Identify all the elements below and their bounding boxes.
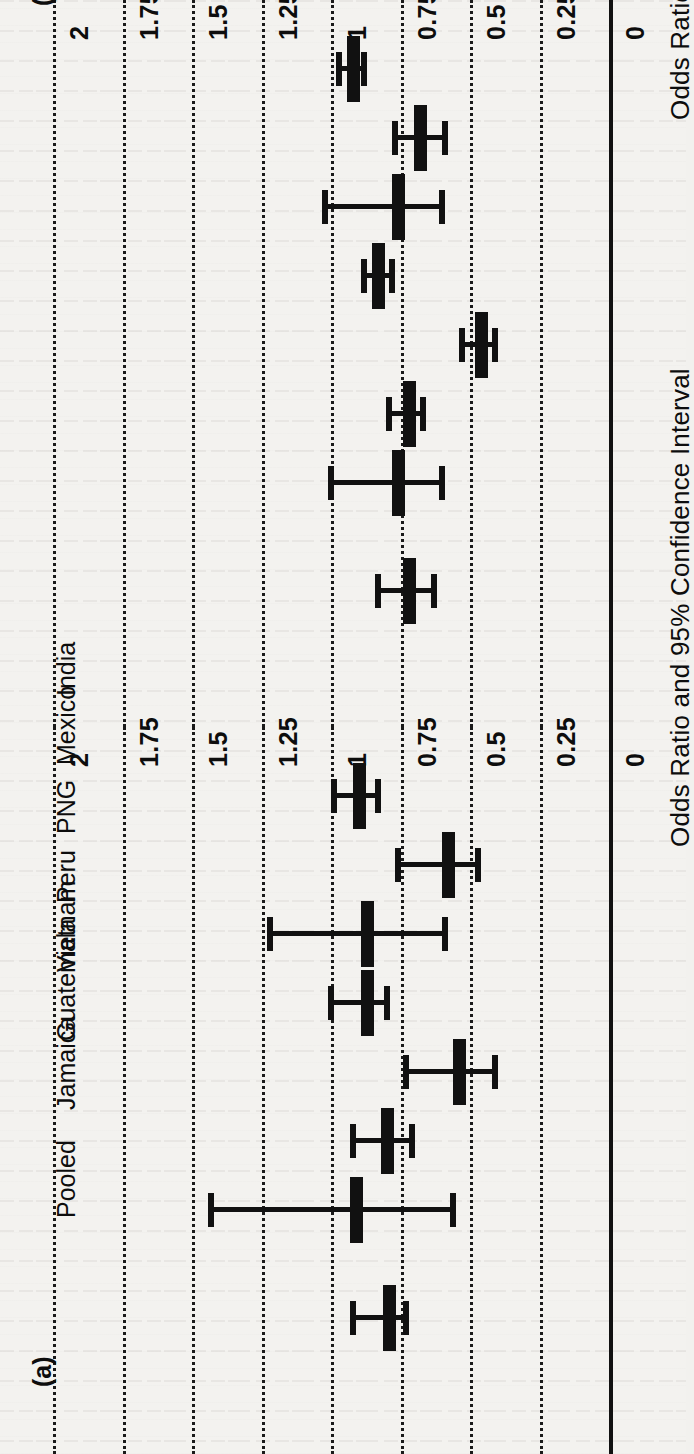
- study-marker-pooled: [0, 1287, 686, 1349]
- study-marker-jamaica: [0, 1179, 686, 1241]
- study-label-png: PNG: [52, 780, 81, 834]
- ci-upper-cap: [328, 466, 334, 500]
- study-label-pooled: Pooled: [52, 1140, 81, 1218]
- ci-upper-cap: [336, 52, 342, 86]
- point-estimate: [353, 763, 366, 829]
- confidence-interval-line: [325, 204, 442, 209]
- confidence-interval-line: [406, 1069, 495, 1074]
- study-label-band: IndiaMexicoPNGPeruVietnamGuatemalaJamaic…: [0, 600, 686, 730]
- study-marker-vietnam: [0, 314, 686, 376]
- study-marker-guatemala: [0, 1110, 686, 1172]
- study-marker-peru: [0, 972, 686, 1034]
- confidence-interval-line: [331, 480, 442, 485]
- ci-upper-cap: [208, 1193, 214, 1227]
- ci-lower-cap: [409, 1124, 415, 1158]
- ci-lower-cap: [442, 917, 448, 951]
- tick-label-1.25: 1.25: [274, 0, 303, 40]
- ci-lower-cap: [492, 328, 498, 362]
- confidence-interval-line: [398, 862, 479, 867]
- ci-lower-cap: [450, 1193, 456, 1227]
- point-estimate: [381, 1108, 394, 1174]
- point-estimate: [392, 450, 405, 516]
- confidence-interval-line: [211, 1207, 453, 1212]
- study-marker-vietnam: [0, 1041, 686, 1103]
- point-estimate: [372, 243, 385, 309]
- ci-lower-cap: [442, 121, 448, 155]
- point-estimate: [361, 970, 374, 1036]
- tick-label-1.5: 1.5: [204, 4, 233, 40]
- study-label-mexico: Mexico: [52, 686, 81, 765]
- study-marker-mexico: [0, 834, 686, 896]
- tick-label-1.5: 1.5: [204, 731, 233, 767]
- ci-upper-cap: [386, 397, 392, 431]
- ci-upper-cap: [322, 190, 328, 224]
- study-marker-jamaica: [0, 452, 686, 514]
- ci-lower-cap: [439, 466, 445, 500]
- ci-lower-cap: [439, 190, 445, 224]
- study-marker-india: [0, 765, 686, 827]
- study-marker-peru: [0, 245, 686, 307]
- point-estimate: [442, 832, 455, 898]
- ci-lower-cap: [492, 1055, 498, 1089]
- point-estimate: [347, 36, 360, 102]
- study-label-jamaica: Jamaica: [52, 1017, 81, 1110]
- point-estimate: [350, 1177, 363, 1243]
- study-marker-mexico: [0, 107, 686, 169]
- study-marker-png: [0, 903, 686, 965]
- ci-upper-cap: [392, 121, 398, 155]
- tick-label-0.5: 0.5: [482, 4, 511, 40]
- point-estimate: [392, 174, 405, 240]
- ci-lower-cap: [389, 259, 395, 293]
- point-estimate: [414, 105, 427, 171]
- ci-upper-cap: [361, 259, 367, 293]
- tick-label-0.25: 0.25: [552, 0, 581, 40]
- tick-label-0.75: 0.75: [413, 0, 442, 40]
- confidence-interval-line: [353, 1315, 406, 1320]
- ci-upper-cap: [350, 1124, 356, 1158]
- ci-upper-cap: [459, 328, 465, 362]
- panel-label-b: (b): [28, 0, 57, 6]
- point-estimate: [383, 1285, 396, 1351]
- ci-lower-cap: [403, 1301, 409, 1335]
- ci-upper-cap: [331, 779, 337, 813]
- tick-label-0.5: 0.5: [482, 731, 511, 767]
- point-estimate: [475, 312, 488, 378]
- point-estimate: [453, 1039, 466, 1105]
- confidence-interval-line: [331, 1000, 387, 1005]
- ci-upper-cap: [395, 848, 401, 882]
- point-estimate: [403, 381, 416, 447]
- study-marker-guatemala: [0, 383, 686, 445]
- ci-lower-cap: [375, 779, 381, 813]
- forest-plot-panel-a: (a) 00.250.50.7511.251.51.752Odds Ratio …: [0, 727, 686, 1454]
- panel-label-a: (a): [28, 1356, 57, 1387]
- study-marker-india: [0, 38, 686, 100]
- tick-label-1.75: 1.75: [135, 0, 164, 40]
- study-marker-png: [0, 176, 686, 238]
- ci-lower-cap: [384, 986, 390, 1020]
- ci-upper-cap: [328, 986, 334, 1020]
- point-estimate: [361, 901, 374, 967]
- ci-upper-cap: [350, 1301, 356, 1335]
- ci-upper-cap: [267, 917, 273, 951]
- ci-lower-cap: [420, 397, 426, 431]
- ci-lower-cap: [475, 848, 481, 882]
- confidence-interval-line: [270, 931, 445, 936]
- ci-lower-cap: [361, 52, 367, 86]
- ci-upper-cap: [403, 1055, 409, 1089]
